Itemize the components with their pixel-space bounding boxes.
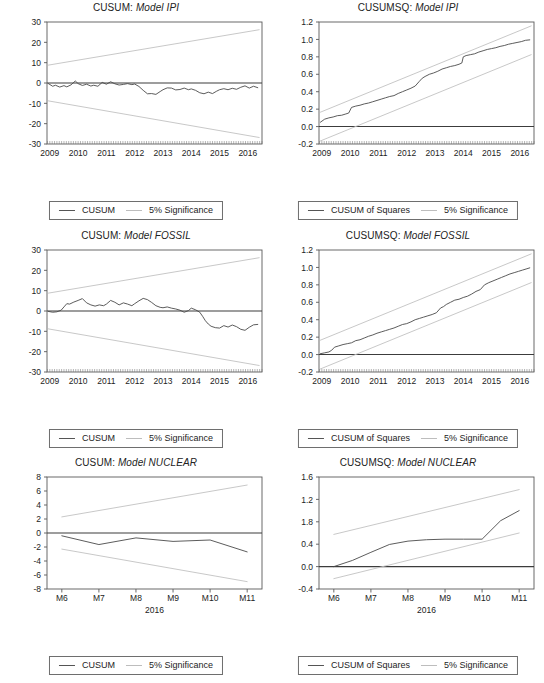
series-line [334, 490, 519, 535]
y-tick-label: 8 [36, 472, 41, 482]
x-tick-label: 2009 [40, 148, 59, 158]
x-tick-label: 2015 [482, 376, 501, 386]
title-prefix: CUSUMSQ: [340, 457, 395, 468]
x-tick-label: 2010 [69, 376, 88, 386]
y-tick-label: 0.6 [301, 297, 313, 307]
legend-series-line-icon [308, 438, 324, 439]
y-tick-label: 0.4 [301, 315, 313, 325]
panel-cusumsq-fossil: CUSUMSQ: Model FOSSIL-0.20.00.20.40.60.8… [272, 228, 544, 456]
x-tick-label: 2011 [369, 148, 388, 158]
x-tick-label: 2016 [238, 376, 257, 386]
x-tick-label: 2014 [454, 376, 473, 386]
x-tick-label: 2013 [154, 376, 173, 386]
legend-bound-line-icon [421, 665, 437, 666]
series-line [320, 283, 531, 369]
series-line [62, 485, 247, 517]
y-tick-label: 10 [32, 58, 42, 68]
title-model: Model FOSSIL [403, 230, 470, 241]
panel-title: CUSUM: Model FOSSIL [0, 230, 272, 241]
series-line [48, 30, 259, 65]
series-line [48, 101, 259, 138]
panel-cusum-nuclear: CUSUM: Model NUCLEAR-8-6-4-202468M6M7M8M… [0, 455, 272, 683]
x-tick-label: 2012 [397, 148, 416, 158]
plot-area: -30-20-100102030200920102011201220132014… [0, 16, 272, 178]
legend-series-line-icon [308, 210, 324, 211]
chart-plot: -0.20.00.20.40.60.81.01.2200920102011201… [272, 244, 544, 406]
y-tick-label: 0.2 [301, 332, 313, 342]
y-tick-label: 20 [32, 38, 42, 48]
y-tick-label: 10 [32, 286, 42, 296]
x-tick-label: 2011 [97, 148, 116, 158]
panel-title: CUSUMSQ: Model FOSSIL [272, 230, 544, 241]
legend-bound-line-icon [421, 210, 437, 211]
panel-title: CUSUM: Model IPI [0, 2, 272, 13]
chart-plot: -0.20.00.20.40.60.81.01.2200920102011201… [272, 16, 544, 178]
title-prefix: CUSUM: [75, 457, 115, 468]
chart-legend: CUSUM5% Significance [49, 429, 223, 448]
panel-title: CUSUMSQ: Model NUCLEAR [272, 457, 544, 468]
panel-title: CUSUMSQ: Model IPI [272, 2, 544, 13]
legend-bound-label: 5% Significance [444, 205, 508, 215]
chart-plot: -30-20-100102030200920102011201220132014… [0, 16, 272, 178]
x-tick-label: 2010 [69, 148, 88, 158]
y-tick-label: -0.4 [298, 584, 313, 594]
series-line [320, 40, 529, 122]
legend-bound-line-icon [421, 438, 437, 439]
plot-area: -0.20.00.20.40.60.81.01.2200920102011201… [272, 244, 544, 406]
title-model: Model IPI [136, 2, 179, 13]
x-tick-label: M6 [56, 593, 68, 603]
title-prefix: CUSUMSQ: [358, 2, 413, 13]
x-tick-label: 2009 [40, 376, 59, 386]
series-line [62, 549, 247, 582]
x-tick-label: 2016 [510, 148, 529, 158]
x-tick-label: 2015 [482, 148, 501, 158]
x-tick-label: 2013 [426, 376, 445, 386]
x-tick-label: 2014 [182, 376, 201, 386]
y-tick-label: -6 [33, 570, 41, 580]
x-tick-label: M10 [202, 593, 219, 603]
y-tick-label: -20 [29, 119, 42, 129]
y-tick-label: 0.8 [301, 52, 313, 62]
x-tick-label: 2016 [510, 376, 529, 386]
chart-plot: -30-20-100102030200920102011201220132014… [0, 244, 272, 406]
x-tick-label: M9 [439, 593, 451, 603]
x-tick-label: M11 [511, 593, 527, 603]
y-tick-label: -2 [33, 542, 41, 552]
series-line [334, 511, 519, 567]
y-tick-label: 1.0 [301, 35, 313, 45]
x-tick-label: 2013 [426, 148, 445, 158]
chart-legend: CUSUM of Squares5% Significance [298, 429, 518, 448]
chart-legend: CUSUM of Squares5% Significance [298, 656, 518, 675]
x-tick-label: M7 [93, 593, 105, 603]
y-tick-label: 6 [36, 486, 41, 496]
series-line [320, 254, 531, 340]
title-prefix: CUSUM: [81, 230, 121, 241]
y-tick-label: 0.4 [301, 87, 313, 97]
x-tick-label: 2014 [454, 148, 473, 158]
y-tick-label: 1.2 [301, 17, 313, 27]
x-tick-label: M10 [474, 593, 491, 603]
legend-bound-label: 5% Significance [444, 433, 508, 443]
x-tick-label: 2013 [154, 148, 173, 158]
panel-cusum-ipi: CUSUM: Model IPI-30-20-10010203020092010… [0, 0, 272, 228]
series-line [48, 298, 257, 330]
legend-bound-label: 5% Significance [149, 433, 213, 443]
series-line [48, 258, 259, 293]
plot-area: -8-6-4-202468M6M7M8M9M10M112016 [0, 471, 272, 633]
legend-bound-line-icon [126, 438, 142, 439]
y-tick-label: 0.0 [301, 122, 313, 132]
y-tick-label: 4 [36, 500, 41, 510]
x-axis-label: 2016 [145, 605, 164, 615]
legend-series-label: CUSUM [82, 205, 119, 215]
series-line [48, 329, 259, 366]
y-tick-label: 0.2 [301, 104, 313, 114]
title-model: Model IPI [415, 2, 458, 13]
y-tick-label: -4 [33, 556, 41, 566]
x-tick-label: 2011 [97, 376, 116, 386]
y-tick-label: 20 [32, 266, 42, 276]
legend-series-label: CUSUM [82, 660, 119, 670]
legend-bound-line-icon [126, 665, 142, 666]
cusum-figure-sheet: CUSUM: Model IPI-30-20-10010203020092010… [0, 0, 544, 683]
legend-series-line-icon [59, 210, 75, 211]
legend-bound-label: 5% Significance [444, 660, 508, 670]
